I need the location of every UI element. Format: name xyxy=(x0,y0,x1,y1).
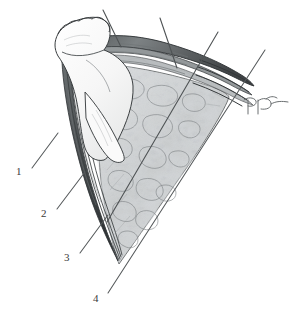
label-number-2: 2 xyxy=(41,208,47,219)
anatomical-illustration xyxy=(0,0,301,315)
label-number-3: 3 xyxy=(64,252,70,263)
label-number-4: 4 xyxy=(93,293,99,304)
label-number-1: 1 xyxy=(16,166,22,177)
figure-container: 1 2 3 4 xyxy=(0,0,301,315)
